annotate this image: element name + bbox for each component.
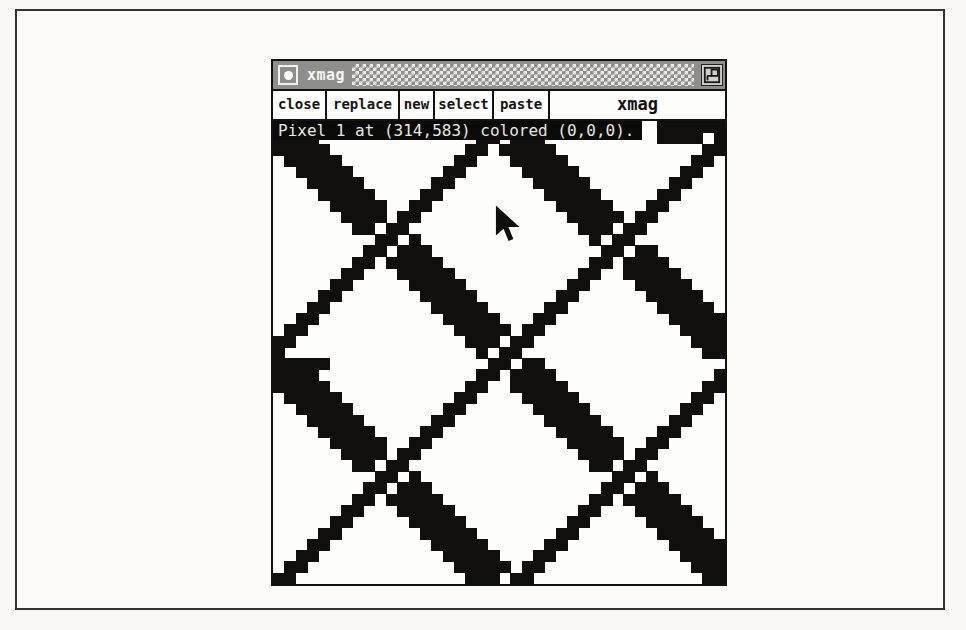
magnified-bitmap-canvas[interactable] <box>273 121 725 584</box>
replace-button[interactable]: replace <box>327 91 400 119</box>
figure-frame: xmag close replace new select paste xmag… <box>15 9 945 610</box>
titlebar[interactable]: xmag <box>273 61 725 91</box>
close-button[interactable]: close <box>273 91 327 119</box>
xmag-window: xmag close replace new select paste xmag… <box>271 59 727 586</box>
new-button[interactable]: new <box>400 91 435 119</box>
resize-icon <box>703 66 721 84</box>
pointer-cursor-icon <box>495 205 521 243</box>
select-button[interactable]: select <box>435 91 494 119</box>
window-title: xmag <box>307 62 345 88</box>
app-name-label: xmag <box>550 91 725 119</box>
pixel-info-label: Pixel 1 at (314,583) colored (0,0,0). <box>273 121 642 140</box>
paste-button[interactable]: paste <box>494 91 550 119</box>
iconify-box-icon[interactable] <box>278 65 298 85</box>
titlebar-stipple-drag-area[interactable] <box>352 64 694 86</box>
toolbar: close replace new select paste xmag <box>273 91 725 121</box>
resize-button[interactable] <box>701 64 723 86</box>
magnifier-view: Pixel 1 at (314,583) colored (0,0,0). <box>273 121 725 584</box>
titlebar-dot-icon <box>284 71 293 80</box>
